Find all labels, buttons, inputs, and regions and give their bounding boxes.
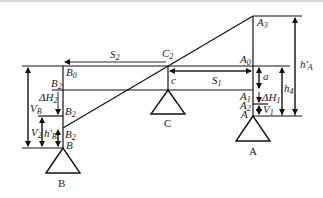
label-b0: B0 (66, 66, 77, 80)
label-a3: A3 (256, 16, 268, 30)
label-v1: V1 (263, 103, 274, 117)
label-s1: S1 (212, 74, 222, 88)
label-b: B (66, 139, 73, 151)
elevation-diagram: A3 A0 A1 A2 A B0 B2 B2 B2 B C2 c S2 S1 a… (0, 0, 323, 198)
label-b2-mid: B2 (65, 105, 76, 119)
label-s2: S2 (110, 48, 120, 62)
support-b-triangle (46, 148, 80, 173)
label-c2: C2 (162, 47, 173, 61)
label-c-point: c (171, 74, 176, 86)
support-c-triangle (151, 90, 185, 114)
label-b2-top: B2 (51, 77, 62, 91)
label-support-a: A (249, 145, 257, 157)
label-h4: h4 (284, 82, 294, 96)
label-support-c: C (164, 117, 171, 129)
label-v2: V2 (31, 126, 42, 140)
label-dh2: ΔH2 (38, 91, 57, 105)
label-ha: h'A (300, 58, 313, 72)
label-a: A (240, 108, 248, 120)
label-a-dim: a (263, 70, 269, 82)
label-hb: h'B (44, 127, 57, 141)
label-a0: A0 (239, 53, 251, 67)
label-vb: VB (30, 102, 42, 116)
label-support-b: B (58, 177, 65, 189)
